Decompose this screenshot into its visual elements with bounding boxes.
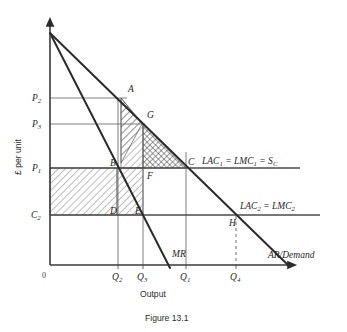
economics-diagram: P2 P3 P1 C2 Q2 Q3 Q1 Q4	[0, 0, 347, 332]
x-tick-label-Q3: Q3	[137, 272, 148, 283]
figure-container: P2 P3 P1 C2 Q2 Q3 Q1 Q4	[0, 0, 347, 332]
point-label-E: E	[134, 206, 141, 216]
x-axis-tick-labels: Q2 Q3 Q1 Q4	[112, 272, 241, 283]
x-tick-label-Q4: Q4	[230, 272, 241, 283]
axes	[50, 22, 292, 265]
x-tick-label-Q2: Q2	[112, 272, 123, 283]
figure-caption: Figure 13.1	[145, 313, 189, 323]
origin-label: 0	[42, 271, 46, 280]
region-triangle-upper-wedge	[121, 98, 143, 168]
point-label-B: B	[110, 158, 116, 168]
region-producer-surplus-rectangle	[50, 168, 117, 215]
x-tick-label-Q1: Q1	[180, 272, 190, 283]
y-tick-label-C2: C2	[31, 210, 41, 221]
y-axis-tick-labels: P2 P3 P1 C2	[31, 93, 42, 221]
curve-ar-demand	[50, 33, 288, 265]
point-label-D: D	[109, 206, 117, 216]
y-tick-label-P1: P1	[31, 163, 41, 174]
label-lac2-lmc2: LAC2 = LMC2	[239, 201, 296, 212]
point-label-H: H	[228, 218, 237, 228]
y-tick-label-P3: P3	[31, 119, 42, 130]
point-label-C: C	[188, 157, 195, 167]
point-label-F: F	[146, 171, 153, 181]
x-axis-title: Output	[140, 289, 166, 299]
label-lac1-lmc1-sc: LAC1 = LMC1 = SC	[201, 156, 278, 167]
label-mr-curve: MR	[171, 249, 186, 259]
point-label-A: A	[127, 84, 134, 94]
y-tick-label-P2: P2	[31, 93, 42, 104]
y-axis-title: £ per unit	[13, 139, 23, 175]
point-label-G: G	[147, 110, 154, 120]
label-ar-demand-curve: AR/Demand	[267, 250, 315, 260]
